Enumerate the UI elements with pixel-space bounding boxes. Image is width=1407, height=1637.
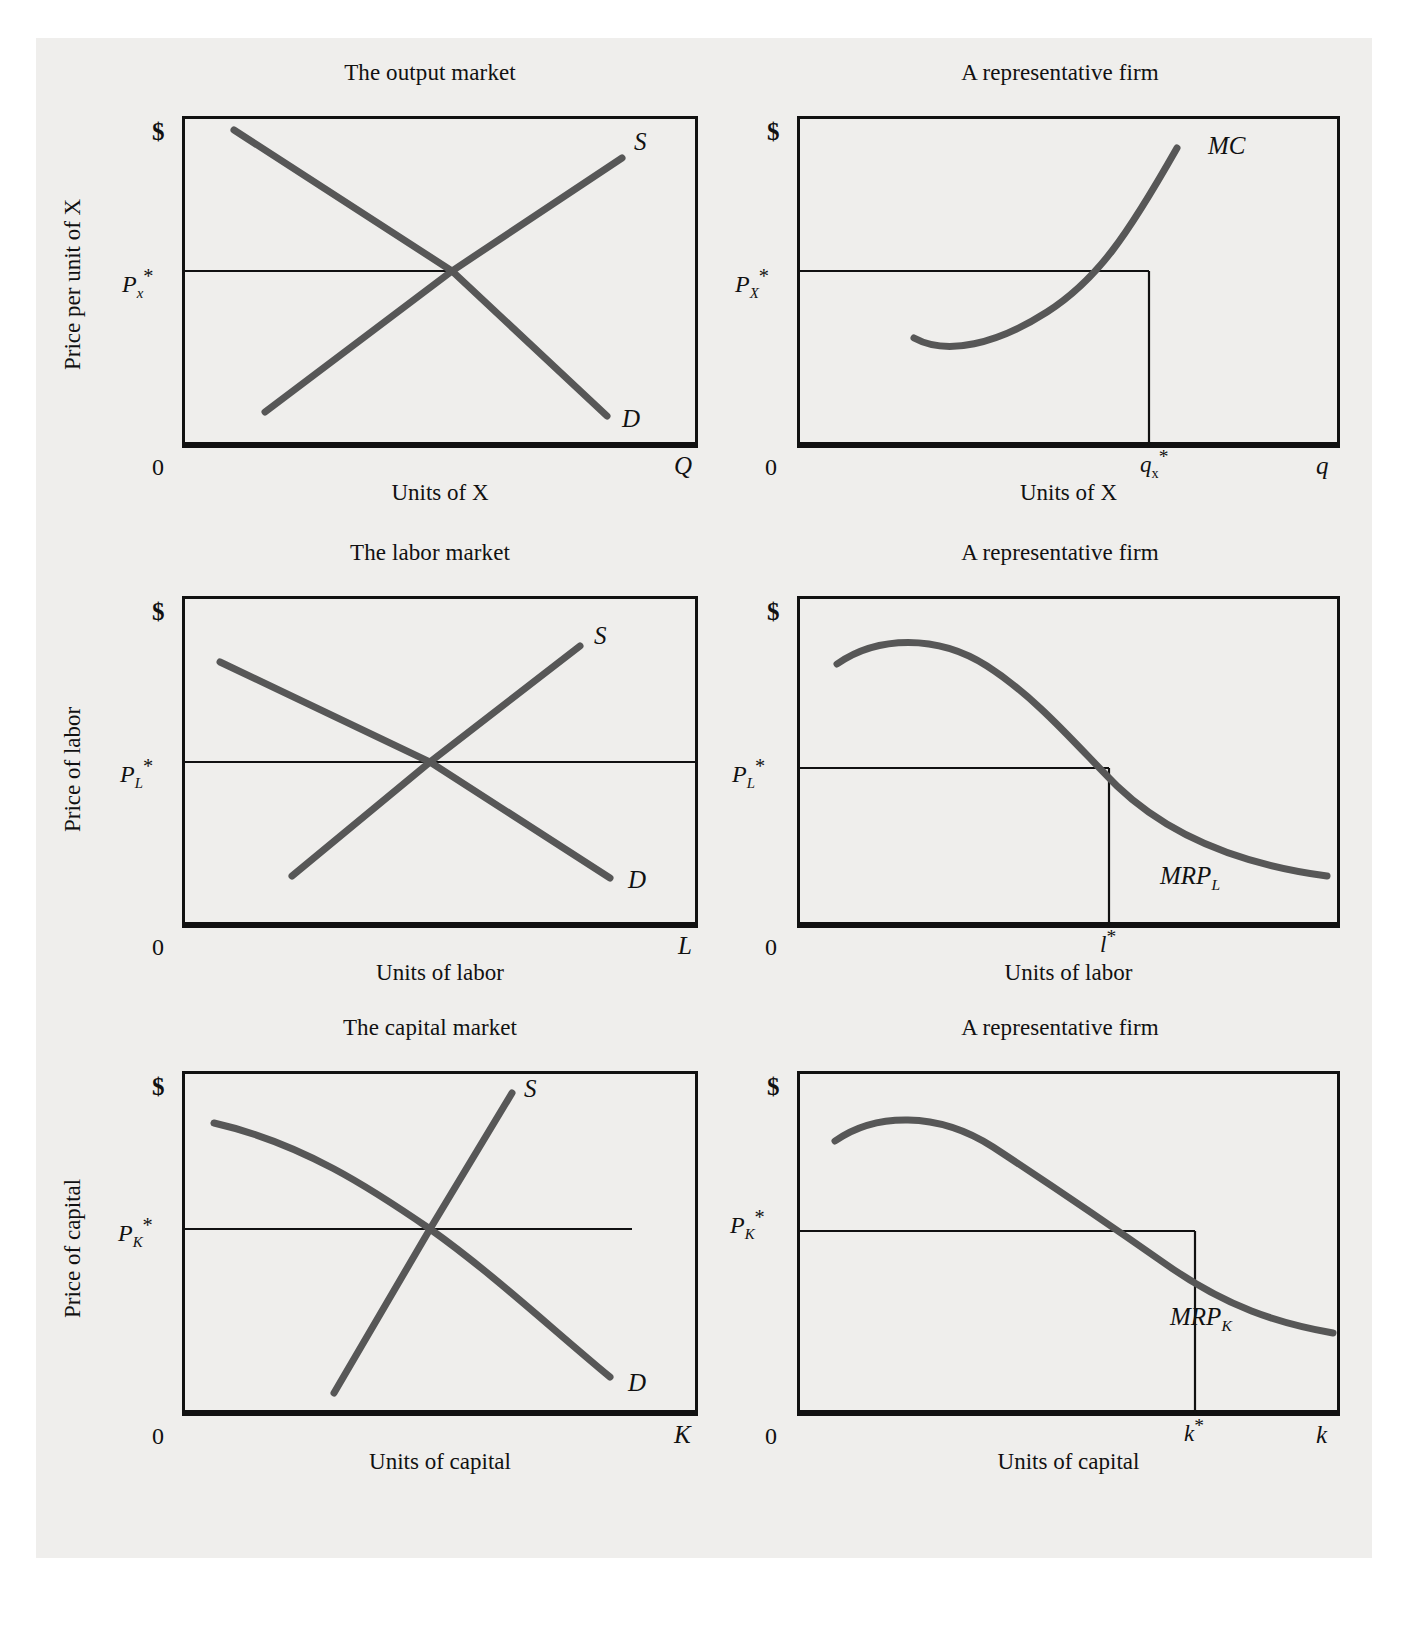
curve-marginal-cost-output-firm	[914, 148, 1177, 346]
y-axis-dollar-labor-firm: $	[767, 598, 780, 626]
plot-svg-capital-firm	[797, 1071, 1340, 1416]
curve-supply-output-market	[265, 158, 622, 412]
price-star: *	[755, 755, 765, 777]
curve-label-supply-output-market: S	[634, 128, 647, 156]
price-subscript: x	[137, 285, 144, 301]
panel-output-firm: A representative firm $ PX* 0 qx* q MC U…	[760, 60, 1360, 510]
curve-label-demand-output-market: D	[622, 405, 640, 433]
panel-output-market: The output market $ Px* 0 Q S D Units of…	[150, 60, 710, 510]
price-subscript: X	[750, 285, 759, 301]
x-axis-caption-labor-firm: Units of labor	[797, 960, 1340, 986]
panel-capital-firm: A representative firm $ PK* 0 k* k MRPK …	[760, 1015, 1360, 1475]
panel-title-capital-firm: A representative firm	[760, 1015, 1360, 1041]
y-axis-caption-capital-market: Price of capital	[60, 1179, 86, 1318]
plot-svg-labor-market	[182, 596, 698, 928]
price-tick-output-market: Px*	[122, 271, 153, 302]
price-symbol: P	[122, 271, 137, 297]
curve-marginal-revenue-product-capital	[835, 1120, 1333, 1333]
panel-labor-firm: A representative firm $ PL* 0 l* MRPL Un…	[760, 540, 1360, 990]
price-subscript: L	[747, 775, 755, 791]
plot-svg-labor-firm	[797, 596, 1340, 928]
panel-labor-market: The labor market $ PL* 0 L S D Units of …	[150, 540, 710, 990]
y-axis-dollar-output-market: $	[152, 118, 165, 146]
curve-label-marginal-cost-output-firm: MC	[1208, 132, 1246, 160]
qty-star: *	[1194, 1415, 1204, 1436]
price-subscript: K	[133, 1234, 143, 1250]
y-axis-dollar-labor-market: $	[152, 598, 165, 626]
panel-title-output-market: The output market	[150, 60, 710, 86]
price-star: *	[755, 1206, 765, 1228]
price-symbol: P	[732, 761, 747, 787]
mrp-text: MRP	[1160, 862, 1211, 889]
y-axis-dollar-output-firm: $	[767, 118, 780, 146]
x-axis-letter-labor-market: L	[678, 932, 692, 960]
y-axis-caption-labor-market: Price of labor	[60, 707, 86, 832]
origin-label-output-market: 0	[152, 454, 164, 481]
qty-symbol: q	[1140, 452, 1152, 477]
qty-tick-output-firm: qx*	[1140, 452, 1168, 482]
y-axis-dollar-capital-market: $	[152, 1073, 165, 1101]
x-axis-letter-output-firm: q	[1316, 452, 1329, 480]
price-subscript: K	[745, 1226, 755, 1242]
qty-star: *	[1106, 926, 1116, 947]
mrp-subscript: L	[1211, 876, 1220, 893]
y-axis-dollar-capital-firm: $	[767, 1073, 780, 1101]
price-star: *	[143, 265, 153, 287]
mrp-text: MRP	[1170, 1303, 1221, 1330]
qty-tick-capital-firm: k*	[1184, 1421, 1204, 1447]
x-axis-caption-labor-market: Units of labor	[182, 960, 698, 986]
curve-demand-capital-market	[214, 1123, 610, 1377]
price-tick-labor-market: PL*	[120, 761, 153, 792]
price-tick-output-firm: PX*	[735, 271, 769, 302]
price-symbol: P	[735, 271, 750, 297]
mrp-subscript: K	[1221, 1317, 1231, 1334]
plot-svg-output-market	[182, 116, 698, 448]
plot-svg-capital-market	[182, 1071, 698, 1416]
y-axis-caption-output-market: Price per unit of X	[60, 199, 86, 370]
x-axis-caption-capital-market: Units of capital	[182, 1449, 698, 1475]
curve-label-mrp-labor-firm: MRPL	[1160, 862, 1220, 894]
plot-svg-output-firm	[797, 116, 1340, 448]
qty-tick-labor-firm: l*	[1100, 932, 1116, 958]
x-axis-caption-output-market: Units of X	[182, 480, 698, 506]
qty-star: *	[1159, 446, 1169, 467]
qty-subscript: x	[1152, 465, 1159, 481]
origin-label-capital-market: 0	[152, 1423, 164, 1450]
price-subscript: L	[135, 775, 143, 791]
x-axis-letter-output-market: Q	[674, 452, 692, 480]
price-symbol: P	[118, 1220, 133, 1246]
x-axis-caption-output-firm: Units of X	[797, 480, 1340, 506]
curve-label-supply-capital-market: S	[524, 1075, 537, 1103]
price-star: *	[143, 755, 153, 777]
curve-marginal-revenue-product-labor	[837, 643, 1327, 877]
panel-title-output-firm: A representative firm	[760, 60, 1360, 86]
curve-label-supply-labor-market: S	[594, 622, 607, 650]
qty-symbol: k	[1184, 1421, 1194, 1446]
origin-label-output-firm: 0	[765, 454, 777, 481]
price-star: *	[143, 1214, 153, 1236]
price-tick-capital-market: PK*	[118, 1220, 153, 1251]
figure-grid: The output market $ Px* 0 Q S D Units of…	[0, 0, 1407, 1637]
origin-label-labor-firm: 0	[765, 934, 777, 961]
curve-supply-capital-market	[334, 1093, 512, 1393]
price-tick-labor-firm: PL*	[732, 761, 765, 792]
curve-demand-output-market	[234, 130, 607, 416]
curve-label-demand-capital-market: D	[628, 1369, 646, 1397]
x-axis-letter-capital-market: K	[674, 1421, 691, 1449]
x-axis-caption-capital-firm: Units of capital	[797, 1449, 1340, 1475]
panel-title-labor-firm: A representative firm	[760, 540, 1360, 566]
origin-label-capital-firm: 0	[765, 1423, 777, 1450]
panel-capital-market: The capital market $ PK* 0 K S D Units o…	[150, 1015, 710, 1475]
price-star: *	[759, 265, 769, 287]
price-tick-capital-firm: PK*	[730, 1212, 765, 1243]
curve-label-demand-labor-market: D	[628, 866, 646, 894]
price-symbol: P	[730, 1212, 745, 1238]
panel-title-capital-market: The capital market	[150, 1015, 710, 1041]
origin-label-labor-market: 0	[152, 934, 164, 961]
price-symbol: P	[120, 761, 135, 787]
curve-label-mrp-capital-firm: MRPK	[1170, 1303, 1232, 1335]
x-axis-letter-capital-firm: k	[1316, 1421, 1327, 1449]
panel-title-labor-market: The labor market	[150, 540, 710, 566]
